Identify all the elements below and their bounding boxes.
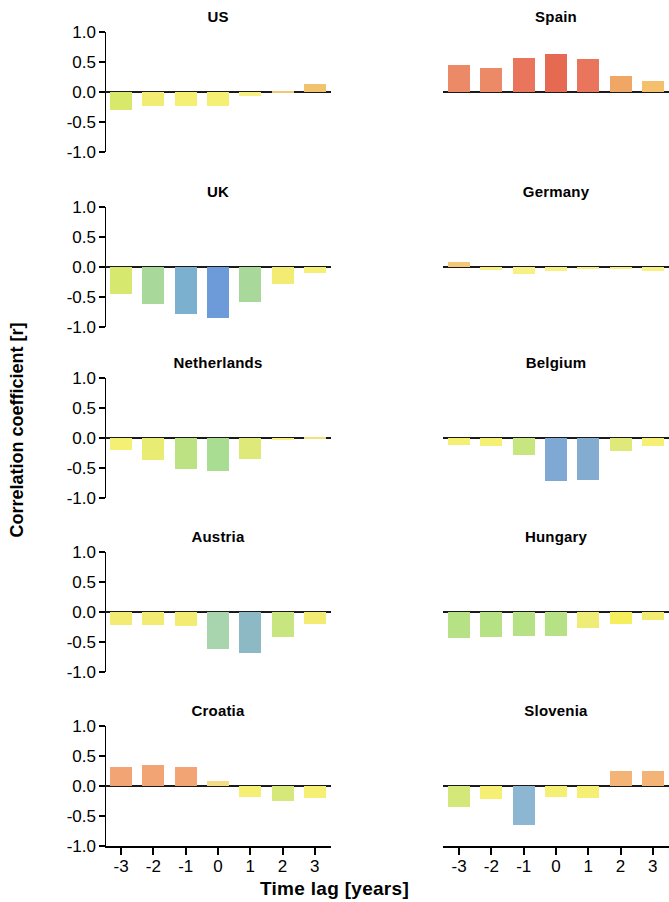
y-axis-tick-label: 0.5 xyxy=(72,748,96,765)
plot-area xyxy=(443,378,669,498)
bar xyxy=(610,771,632,786)
bar xyxy=(480,786,502,799)
bar xyxy=(642,612,664,620)
bar xyxy=(142,92,164,106)
bar xyxy=(142,765,164,786)
bar xyxy=(175,92,197,106)
x-axis-tick xyxy=(587,848,589,855)
y-axis-tick xyxy=(99,551,105,553)
bar xyxy=(642,438,664,446)
bar xyxy=(448,438,470,445)
y-axis-tick-label: -1.0 xyxy=(67,319,96,336)
panel-title: US xyxy=(105,8,331,25)
panel-austria: Austria1.00.50.0-0.5-1.0 xyxy=(105,528,331,672)
bar xyxy=(272,438,294,440)
y-axis-tick-label: 0.0 xyxy=(72,259,96,276)
bar xyxy=(175,612,197,626)
x-axis-tick-label: 1 xyxy=(584,858,593,875)
y-axis-tick-label: -1.0 xyxy=(67,664,96,681)
bar xyxy=(545,267,567,271)
y-axis-tick-label: -0.5 xyxy=(67,808,96,825)
panel-title: Croatia xyxy=(105,702,331,719)
bar xyxy=(304,437,326,439)
x-axis-tick-label: 1 xyxy=(246,858,255,875)
bar xyxy=(642,771,664,786)
plot-area xyxy=(443,552,669,672)
x-axis-tick-label: 3 xyxy=(310,858,319,875)
plot-area: 1.00.50.0-0.5-1.0 xyxy=(105,378,331,498)
y-axis-title: Correlation coefficient [r] xyxy=(4,150,30,710)
x-axis-tick xyxy=(217,848,219,855)
y-axis-tick xyxy=(99,815,105,817)
x-axis-tick xyxy=(555,848,557,855)
y-axis-tick-label: 0.5 xyxy=(72,574,96,591)
x-axis-tick-label: -2 xyxy=(484,858,499,875)
bar xyxy=(480,68,502,92)
panel-germany: Germany xyxy=(443,183,669,327)
bar xyxy=(239,612,261,653)
x-axis-tick xyxy=(185,848,187,855)
x-axis-title: Time lag [years] xyxy=(0,878,669,900)
bar xyxy=(272,786,294,801)
y-axis-tick xyxy=(99,61,105,63)
y-axis-tick xyxy=(99,581,105,583)
y-axis-tick-label: 0.0 xyxy=(72,430,96,447)
bar xyxy=(513,58,535,92)
y-axis-tick-label: 1.0 xyxy=(72,199,96,216)
bar xyxy=(142,612,164,625)
y-axis-tick-label: -1.0 xyxy=(67,144,96,161)
bar xyxy=(610,76,632,92)
bar xyxy=(175,267,197,314)
y-axis-tick-label: -0.5 xyxy=(67,634,96,651)
panel-spain: Spain xyxy=(443,8,669,152)
bar xyxy=(642,81,664,92)
panel-title: UK xyxy=(105,183,331,200)
bar xyxy=(513,786,535,825)
bar xyxy=(110,612,132,625)
x-axis-tick xyxy=(458,848,460,855)
bar xyxy=(448,786,470,807)
y-axis-tick-label: 0.0 xyxy=(72,604,96,621)
bar xyxy=(545,612,567,636)
x-axis-tick-label: -1 xyxy=(178,858,193,875)
bar xyxy=(480,612,502,637)
x-axis-tick xyxy=(152,848,154,855)
x-axis-tick-label: -2 xyxy=(146,858,161,875)
bar xyxy=(577,786,599,798)
bar xyxy=(480,438,502,446)
bar xyxy=(272,267,294,284)
panel-us: US1.00.50.0-0.5-1.0 xyxy=(105,8,331,152)
y-axis-tick xyxy=(99,407,105,409)
bar xyxy=(642,267,664,271)
bar xyxy=(142,267,164,304)
x-axis-tick-label: 3 xyxy=(648,858,657,875)
y-axis-tick-label: -0.5 xyxy=(67,114,96,131)
bar xyxy=(480,267,502,270)
y-axis-tick-label: 0.5 xyxy=(72,229,96,246)
bar xyxy=(448,262,470,267)
y-axis-tick-label: 0.0 xyxy=(72,84,96,101)
plot-area xyxy=(443,207,669,327)
bar xyxy=(110,438,132,450)
bar xyxy=(207,438,229,471)
y-axis-tick-label: 0.5 xyxy=(72,400,96,417)
figure: Correlation coefficient [r] US1.00.50.0-… xyxy=(0,0,669,902)
y-axis-tick xyxy=(99,151,105,153)
y-axis-tick xyxy=(99,296,105,298)
y-axis-tick xyxy=(99,121,105,123)
panel-title: Austria xyxy=(105,528,331,545)
y-axis-tick-label: -0.5 xyxy=(67,289,96,306)
bar xyxy=(175,767,197,786)
bar xyxy=(448,612,470,638)
x-axis-tick xyxy=(620,848,622,855)
plot-area xyxy=(443,32,669,152)
panel-title: Netherlands xyxy=(105,354,331,371)
x-axis-tick-label: -3 xyxy=(452,858,467,875)
bar xyxy=(577,438,599,480)
x-axis-tick xyxy=(490,848,492,855)
plot-area: 1.00.50.0-0.5-1.0 xyxy=(105,552,331,672)
x-axis-tick-label: 2 xyxy=(278,858,287,875)
y-axis-tick-label: 0.5 xyxy=(72,54,96,71)
y-axis-tick-label: 0.0 xyxy=(72,778,96,795)
bar xyxy=(110,92,132,110)
